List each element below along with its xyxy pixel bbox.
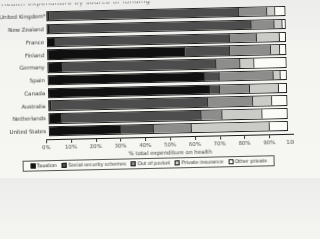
bar-segment — [50, 114, 62, 123]
x-axis-tick-label: 60% — [189, 141, 201, 147]
x-axis-tick-label: 70% — [214, 140, 226, 146]
country-label: Spain — [1, 77, 48, 84]
bar-segment — [251, 20, 275, 29]
country-label: Netherlands — [2, 116, 49, 123]
country-label: France — [0, 39, 47, 46]
country-label: New Zealand — [0, 26, 47, 33]
legend-item: Out of pocket — [131, 160, 170, 167]
x-axis-tick-label: 10% — [65, 143, 77, 149]
bar-segment — [253, 97, 272, 106]
x-axis-tick — [145, 138, 146, 141]
legend-swatch — [175, 160, 180, 165]
x-axis-tick — [96, 140, 97, 143]
country-label: Australia — [1, 103, 48, 110]
bar-segment — [250, 84, 279, 93]
legend-label: Taxation — [37, 162, 57, 168]
country-label: Finland — [0, 52, 47, 59]
x-axis-tick-label: 100% — [286, 138, 294, 144]
bar-segment — [49, 85, 210, 97]
x-axis-tick — [71, 140, 72, 143]
bar-segment — [121, 125, 154, 134]
bar-segment — [275, 7, 285, 16]
legend-item: Taxation — [30, 162, 57, 169]
legend-swatch — [228, 159, 233, 164]
x-axis-tick-label: 40% — [139, 142, 151, 148]
legend-label: Out of pocket — [138, 160, 171, 167]
country-label: Germany — [0, 64, 47, 71]
legend-swatch — [131, 161, 136, 166]
x-axis-tick-label: 50% — [164, 141, 176, 147]
bar-segment — [256, 33, 280, 42]
bar-segment — [208, 97, 253, 106]
legend-item: Social security schemes — [62, 161, 126, 168]
bar-segment — [50, 8, 240, 21]
country-label: United States — [2, 128, 49, 135]
x-axis-tick — [170, 138, 171, 141]
legend-item: Private insurance — [175, 159, 223, 166]
bar-segment — [281, 71, 286, 79]
x-axis-tick — [244, 136, 245, 139]
bar-segment — [154, 124, 192, 133]
x-axis-tick — [269, 136, 270, 139]
bar-segment — [255, 58, 286, 67]
x-axis-tick — [46, 141, 47, 144]
country-label: United Kingdom* — [0, 13, 46, 20]
bar-segment — [217, 59, 241, 68]
bar-segment — [282, 20, 285, 28]
bar-segment — [272, 96, 286, 105]
bar-segment — [48, 47, 186, 58]
bar-segment — [280, 45, 285, 53]
bar-segment — [186, 47, 231, 56]
bar-segment — [230, 33, 256, 42]
legend-label: Social security schemes — [68, 161, 126, 168]
scanned-chart: Health expenditure by source of funding … — [0, 0, 294, 178]
bar-segment — [279, 84, 286, 93]
plot-area: United Kingdom*New ZealandFranceFinlandG… — [0, 6, 288, 138]
bar-segment — [210, 85, 220, 94]
bar-segment — [280, 33, 285, 41]
x-axis-tick — [220, 137, 221, 140]
bar-segment — [263, 109, 287, 118]
x-axis-tick-label: 90% — [263, 139, 275, 145]
legend-swatch — [30, 163, 35, 168]
x-axis-tick-label: 20% — [90, 143, 102, 149]
bar-segment — [205, 72, 219, 81]
bar-segment — [271, 45, 281, 54]
bar-segment — [239, 7, 268, 16]
bar-segment — [50, 126, 121, 136]
bar-segment — [52, 98, 209, 110]
legend-item: Other private — [228, 158, 267, 165]
bar-segment — [270, 122, 287, 131]
bar-segment — [201, 111, 223, 120]
bar-segment — [63, 60, 217, 72]
legend-label: Other private — [235, 158, 267, 165]
x-axis-tick-label: 0% — [42, 144, 51, 150]
bar-segment — [222, 110, 262, 119]
x-axis-tick-label: 80% — [239, 140, 251, 146]
bar-segment — [220, 84, 251, 93]
bar-segment — [48, 63, 62, 72]
bar-segment — [192, 122, 270, 132]
x-axis-tick — [195, 137, 196, 140]
x-axis-tick — [120, 139, 121, 142]
legend-label: Private insurance — [182, 159, 224, 166]
bar-segment — [219, 71, 274, 81]
country-label: Canada — [1, 90, 48, 97]
legend-swatch — [62, 163, 67, 168]
bar-segment — [231, 46, 271, 55]
bar-segment — [55, 34, 231, 46]
bar-segment — [240, 59, 254, 68]
bar-segment — [49, 73, 206, 85]
bar-segment — [50, 20, 252, 33]
bar-segment — [61, 111, 201, 122]
x-axis-tick-label: 30% — [115, 142, 127, 148]
